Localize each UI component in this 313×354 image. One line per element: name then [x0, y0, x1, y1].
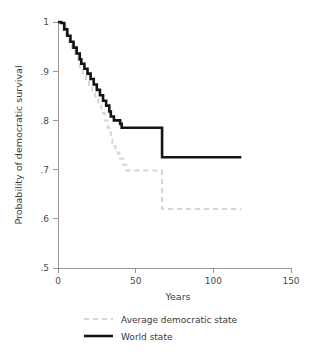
x-axis-tick-labels: 0 50 100 150 — [55, 276, 300, 286]
x-tick-label: 150 — [282, 276, 299, 286]
x-tick-label: 100 — [205, 276, 222, 286]
legend-label-world-state: World state — [121, 332, 173, 342]
x-tick-label: 50 — [130, 276, 142, 286]
y-tick-label: .5 — [40, 263, 49, 273]
y-tick-label: 1 — [43, 17, 49, 27]
y-axis-ticks — [53, 22, 58, 268]
chart-legend: Average democratic state World state — [84, 315, 238, 342]
series-line-world-state — [58, 22, 241, 157]
survival-chart: .5 .6 .7 .8 .9 1 0 50 100 150 Years Prob… — [0, 0, 313, 354]
y-tick-label: .6 — [40, 214, 49, 224]
x-tick-label: 0 — [55, 276, 61, 286]
y-tick-label: .8 — [40, 116, 49, 126]
y-tick-label: .7 — [40, 165, 49, 175]
x-axis-ticks — [58, 268, 291, 273]
y-tick-label: .9 — [40, 67, 49, 77]
y-axis-title: Probability of democratic survival — [13, 65, 24, 224]
y-axis-tick-labels: .5 .6 .7 .8 .9 1 — [40, 17, 49, 273]
x-axis-title: Years — [164, 291, 190, 302]
series-line-average-democratic-state — [58, 22, 241, 209]
legend-label-average-democratic-state: Average democratic state — [121, 315, 238, 325]
chart-svg: .5 .6 .7 .8 .9 1 0 50 100 150 Years Prob… — [0, 0, 313, 354]
